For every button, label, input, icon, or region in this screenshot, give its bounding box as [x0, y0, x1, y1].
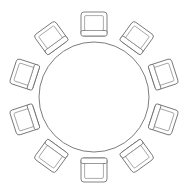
round-table	[39, 42, 149, 152]
chair[interactable]	[148, 58, 179, 90]
chair[interactable]	[34, 139, 69, 174]
seating-plan-canvas	[0, 0, 190, 196]
chair[interactable]	[9, 58, 40, 90]
chair-backrest	[81, 31, 107, 37]
chair[interactable]	[34, 21, 69, 56]
chair[interactable]	[119, 21, 154, 56]
chair[interactable]	[9, 104, 40, 136]
chair-backrest	[81, 158, 107, 164]
seating-plan-drawing	[0, 0, 190, 196]
chair[interactable]	[148, 104, 179, 136]
chair[interactable]	[81, 158, 107, 182]
chair[interactable]	[81, 12, 107, 36]
chair[interactable]	[119, 139, 154, 174]
chair-cushion-outline	[85, 164, 104, 179]
table-layer	[39, 42, 149, 152]
chair-cushion-outline	[85, 16, 104, 31]
